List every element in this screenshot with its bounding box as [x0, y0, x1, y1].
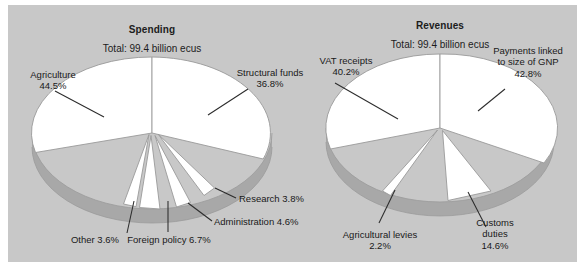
label-administration-name: Administration 4.6%	[214, 216, 298, 227]
label-customs-duties-line1: Customs	[476, 217, 513, 228]
label-foreign-policy-name: Foreign policy 6.7%	[127, 234, 210, 245]
slice-administration	[155, 136, 191, 208]
slice-agricultural-levies	[383, 130, 438, 196]
revenues-subtitle: Total: 99.4 billion ecus	[391, 39, 489, 50]
revenues-pie	[326, 54, 558, 227]
label-administration: Administration 4.6%	[214, 216, 344, 227]
label-customs-duties-line2: duties	[464, 228, 526, 239]
label-other: Other 3.6%	[64, 234, 126, 245]
label-research-name: Research 3.8%	[239, 193, 304, 204]
label-vat-receipts-name: VAT receipts	[320, 55, 373, 66]
spending-title: Spending	[129, 24, 175, 35]
label-structural-funds-pct: 36.8%	[216, 78, 324, 89]
label-customs-duties: Customs duties 14.6%	[464, 217, 526, 251]
label-other-name: Other 3.6%	[71, 234, 119, 245]
label-agricultural-levies-pct: 2.2%	[324, 240, 436, 251]
chart-plate: Spending Total: 99.4 billion ecus Revenu…	[8, 5, 577, 262]
label-research: Research 3.8%	[239, 193, 349, 204]
label-payments-gnp: Payments linked to size of GNP 42.8%	[478, 45, 577, 79]
label-payments-gnp-pct: 42.8%	[478, 68, 577, 79]
label-foreign-policy: Foreign policy 6.7%	[114, 234, 224, 245]
revenues-title: Revenues	[416, 20, 464, 31]
label-agriculture-pct: 44.5%	[8, 80, 98, 91]
label-payments-gnp-line2: to size of GNP	[478, 56, 577, 67]
figure-root: Spending Total: 99.4 billion ecus Revenu…	[0, 0, 585, 280]
label-agricultural-levies: Agricultural levies 2.2%	[324, 229, 436, 252]
label-customs-duties-pct: 14.6%	[464, 240, 526, 251]
spending-subtitle: Total: 99.4 billion ecus	[103, 43, 201, 54]
label-vat-receipts: VAT receipts 40.2%	[302, 55, 390, 78]
label-agricultural-levies-name: Agricultural levies	[343, 229, 417, 240]
label-agriculture: Agriculture 44.5%	[8, 69, 98, 92]
label-vat-receipts-pct: 40.2%	[302, 66, 390, 77]
label-structural-funds-name: Structural funds	[237, 67, 304, 78]
label-payments-gnp-line1: Payments linked	[493, 45, 563, 56]
label-agriculture-name: Agriculture	[30, 69, 75, 80]
spending-title-block: Spending Total: 99.4 billion ecus	[92, 19, 212, 57]
